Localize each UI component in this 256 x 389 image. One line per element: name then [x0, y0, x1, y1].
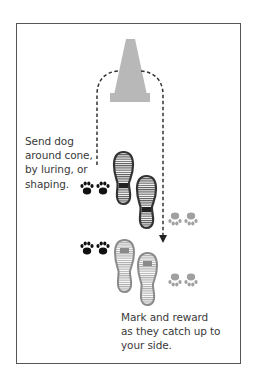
caption-send-dog: Send dog around cone, by luring, or shap… — [25, 134, 105, 191]
shoe-print-icon — [114, 152, 133, 204]
shoe-print-icon — [137, 176, 156, 228]
paw-print-icon — [168, 274, 197, 287]
arrowhead-icon — [159, 235, 167, 243]
caption-mark-reward: Mark and reward as they catch up to your… — [121, 310, 241, 353]
paw-print-icon — [168, 213, 197, 226]
shoe-print-icon — [115, 240, 134, 292]
shoe-print-icon — [138, 253, 157, 305]
paw-print-icon — [80, 242, 109, 255]
